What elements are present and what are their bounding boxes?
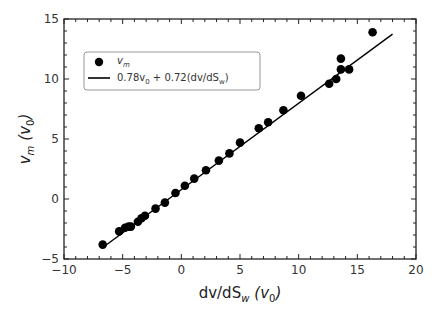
scatter-plot: −10−505101520 −5051015 vm 0.78v0 + 0.72(… [0,0,438,315]
legend: vm 0.78v0 + 0.72(dv/dSw) [84,52,260,90]
x-tick-label: 0 [178,263,186,277]
data-point [151,204,160,213]
y-axis-label: vm(v0) [16,114,36,165]
y-tick-labels: −5051015 [41,12,59,266]
data-point [337,65,346,74]
x-tick-label: 15 [350,263,365,277]
data-point [141,212,150,221]
x-tick-labels: −10−505101520 [51,263,423,277]
data-point [264,118,273,127]
data-point [297,92,306,101]
x-tick-label: 10 [291,263,306,277]
data-point [332,75,341,84]
y-tick-label: 15 [44,12,59,26]
data-point [236,138,245,147]
x-axis-label: dv/dSw(v0) [199,284,282,304]
data-point [171,189,180,198]
x-tick-label: −5 [114,263,132,277]
data-point [254,124,263,133]
data-point [98,240,107,249]
data-point [368,28,377,37]
data-point [202,166,211,175]
data-point [225,149,234,158]
legend-box [84,52,260,90]
y-tick-label: 10 [44,72,59,86]
x-tick-label: 20 [408,263,423,277]
y-tick-label: 5 [51,132,59,146]
data-point [190,174,199,183]
x-tick-label: 5 [236,263,244,277]
data-point [161,198,170,207]
y-tick-label: −5 [41,252,59,266]
data-point [279,106,288,115]
data-point [337,54,346,63]
data-point [325,80,334,89]
legend-marker-icon [95,58,103,66]
data-point [181,182,190,191]
data-point [215,156,224,165]
y-tick-label: 0 [51,192,59,206]
data-point [127,222,136,231]
data-point [345,65,354,74]
